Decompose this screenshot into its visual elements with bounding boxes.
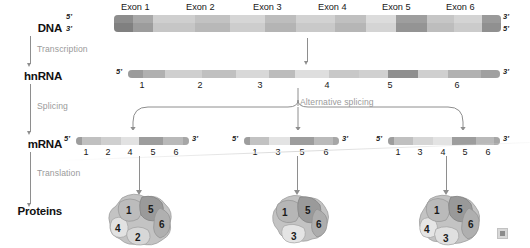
dna-strand-sense	[114, 15, 501, 23]
protein-2-structure: 1 5 6 3	[262, 192, 338, 248]
protein-2-domain-label-5: 5	[305, 205, 311, 216]
protein-1-domain-label-4: 4	[115, 223, 121, 234]
protein-3-domain-label-3: 3	[443, 233, 449, 244]
protein-3-domain-label-6: 6	[468, 219, 474, 230]
mrna-variant-1-five-prime: 5'	[64, 134, 70, 143]
splicing-arrow-line	[30, 84, 31, 132]
protein-1-domain-label-5: 5	[148, 204, 154, 215]
mrna-variant-2-three-prime: 3'	[342, 134, 348, 143]
protein-1-structure: 1 5 6 4 2	[100, 192, 182, 248]
dna-exon-label-4: Exon 4	[318, 2, 347, 12]
protein-3-domain-label-5: 5	[457, 204, 463, 215]
mrna-variant-1-strand	[76, 137, 189, 145]
step-label-splicing: Splicing	[37, 101, 68, 111]
transcription-arrow-head	[27, 63, 31, 67]
mrna-variant-2-five-prime: 5'	[232, 134, 238, 143]
step-label-transcription: Transcription	[37, 44, 88, 54]
protein-1-domain-label-1: 1	[126, 205, 132, 216]
mrna-variant-2-exon-number-4: 6	[320, 147, 332, 157]
transcription-arrow-line	[30, 36, 31, 64]
protein-2-domain-label-3: 3	[291, 231, 297, 242]
splicing-arrow-head	[27, 131, 31, 135]
mrna-variant-2-strand	[244, 137, 339, 145]
watermark-icon	[497, 228, 508, 239]
protein-2-domain-label-6: 6	[316, 219, 322, 230]
mrna-variant-3-five-prime: 5'	[376, 134, 382, 143]
hnrna-three-prime: 3'	[503, 67, 509, 76]
alternative-splicing-bracket	[120, 88, 480, 130]
dna-three-prime-bottom: 3'	[66, 24, 72, 33]
mrna-variant-1-exon-number-2: 2	[102, 147, 114, 157]
protein-1-domain-label-2: 2	[135, 232, 141, 243]
dna-exon-label-3: Exon 3	[253, 2, 282, 12]
mrna-2-translation-arrow-line	[297, 156, 298, 192]
hnrna-strand	[128, 70, 500, 78]
mrna-variant-3-exon-number-2: 3	[414, 147, 426, 157]
protein-2-domain-label-1: 1	[282, 207, 288, 218]
protein-3-domain-label-4: 4	[424, 224, 430, 235]
mrna-1-translation-arrow-line	[139, 156, 140, 192]
dna-exon-label-5: Exon 5	[382, 2, 411, 12]
mrna-variant-1-three-prime: 3'	[192, 134, 198, 143]
protein-1-domain-label-6: 6	[159, 219, 165, 230]
mrna-variant-3-exon-number-1: 1	[392, 147, 404, 157]
dna-five-prime-top: 5'	[66, 12, 72, 21]
translation-arrow-head	[27, 203, 31, 207]
stage-label-dna: DNA	[0, 22, 62, 34]
mrna-variant-3-three-prime: 3'	[503, 134, 509, 143]
mrna-variant-3-exon-number-4: 5	[459, 147, 471, 157]
protein-3-domain-label-1: 1	[434, 205, 440, 216]
dna-to-hnrna-arrow-head	[304, 61, 308, 65]
translation-arrow-line	[30, 152, 31, 204]
dna-five-prime-bottom: 5'	[503, 24, 509, 33]
step-label-translation: Translation	[37, 168, 80, 178]
mrna-3-translation-arrow-line	[446, 156, 447, 192]
dna-three-prime-top: 3'	[503, 12, 509, 21]
dna-strand-antisense	[114, 23, 501, 32]
stage-label-mrna: mRNA	[0, 138, 62, 150]
hnrna-five-prime: 5'	[116, 67, 122, 76]
dna-exon-label-2: Exon 2	[186, 2, 215, 12]
dna-exon-label-1: Exon 1	[121, 2, 150, 12]
mrna-variant-3-exon-number-3: 4	[437, 147, 449, 157]
mrna-variant-3-exon-number-5: 6	[482, 147, 494, 157]
mrna-variant-1-exon-number-1: 1	[80, 147, 92, 157]
dna-exon-label-6: Exon 6	[446, 2, 475, 12]
protein-3-structure: 1 5 6 4 3	[408, 192, 490, 248]
stage-label-hnrna: hnRNA	[0, 70, 62, 82]
mrna-variant-1-exon-number-3: 4	[124, 147, 136, 157]
dna-to-hnrna-arrow-line	[307, 38, 308, 62]
